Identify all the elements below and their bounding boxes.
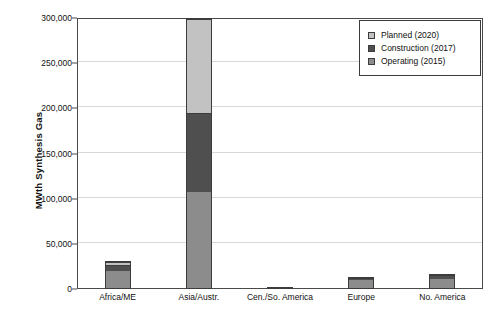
- x-tick-label: Asia/Austr.: [178, 292, 219, 302]
- bar-stack[interactable]: [267, 287, 293, 289]
- bar-stack[interactable]: [348, 277, 374, 289]
- y-tick-label: 250,000: [4, 58, 72, 68]
- y-tick-label: 150,000: [4, 149, 72, 159]
- legend: Planned (2020)Construction (2017)Operati…: [359, 20, 481, 76]
- bar-segment[interactable]: [187, 192, 211, 288]
- x-tick-label: Africa/ME: [99, 292, 136, 302]
- bar-segment[interactable]: [187, 113, 211, 191]
- y-tick-label: 100,000: [4, 194, 72, 204]
- y-tick-label: 300,000: [4, 13, 72, 23]
- x-tick-label: No. America: [419, 292, 465, 302]
- legend-label: Operating (2015): [381, 56, 445, 66]
- y-tick-label: 0: [4, 284, 72, 294]
- bar-group[interactable]: [186, 18, 212, 289]
- bar-segment[interactable]: [349, 280, 373, 288]
- bar-group[interactable]: [429, 274, 455, 289]
- x-axis-ticks: Africa/MEAsia/Austr.Cen./So. AmericaEuro…: [77, 292, 483, 312]
- legend-item[interactable]: Construction (2017): [368, 43, 474, 53]
- bar-segment[interactable]: [268, 287, 292, 288]
- legend-swatch-icon: [368, 32, 375, 39]
- bar-segment[interactable]: [187, 19, 211, 113]
- legend-label: Construction (2017): [381, 43, 456, 53]
- bar-chart: MWth Synthesis Gas 050,000100,000150,000…: [0, 0, 500, 323]
- legend-swatch-icon: [368, 45, 375, 52]
- legend-swatch-icon: [368, 58, 375, 65]
- y-tick-label: 200,000: [4, 103, 72, 113]
- bar-stack[interactable]: [186, 18, 212, 289]
- bar-stack[interactable]: [429, 274, 455, 289]
- bar-group[interactable]: [348, 277, 374, 289]
- bar-stack[interactable]: [105, 261, 131, 289]
- bar-group[interactable]: [105, 261, 131, 289]
- bar-segment[interactable]: [106, 271, 130, 288]
- legend-item[interactable]: Operating (2015): [368, 56, 474, 66]
- y-axis-ticks: 050,000100,000150,000200,000250,000300,0…: [0, 18, 72, 289]
- x-tick-label: Cen./So. America: [247, 292, 313, 302]
- legend-label: Planned (2020): [381, 30, 439, 40]
- bar-segment[interactable]: [430, 279, 454, 288]
- y-tick-label: 50,000: [4, 239, 72, 249]
- x-tick-label: Europe: [347, 292, 374, 302]
- legend-item[interactable]: Planned (2020): [368, 30, 474, 40]
- bar-group[interactable]: [267, 287, 293, 289]
